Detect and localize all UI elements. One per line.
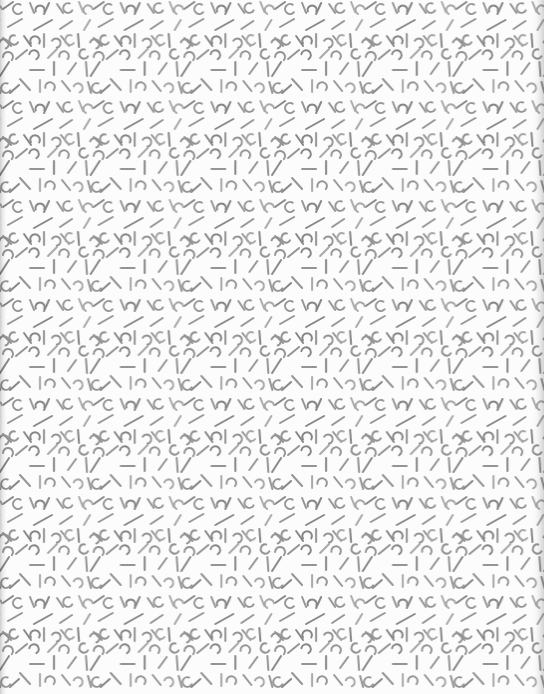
pattern-svg [0,0,544,694]
pattern-fill-rect [0,0,544,694]
confetti-pattern-layer [0,0,544,694]
pattern-canvas [0,0,544,694]
